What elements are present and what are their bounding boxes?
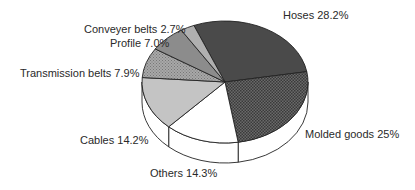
- label-conveyer-belts: Conveyer belts 2.7%: [84, 23, 186, 35]
- label-others: Others 14.3%: [150, 167, 217, 179]
- pie-chart: [0, 0, 415, 190]
- label-profile: Profile 7.0%: [110, 37, 169, 49]
- label-cables: Cables 14.2%: [80, 134, 149, 146]
- label-molded-goods: Molded goods 25%: [305, 128, 399, 140]
- label-transmission-belts: Transmission belts 7.9%: [20, 67, 139, 79]
- label-hoses: Hoses 28.2%: [283, 9, 348, 21]
